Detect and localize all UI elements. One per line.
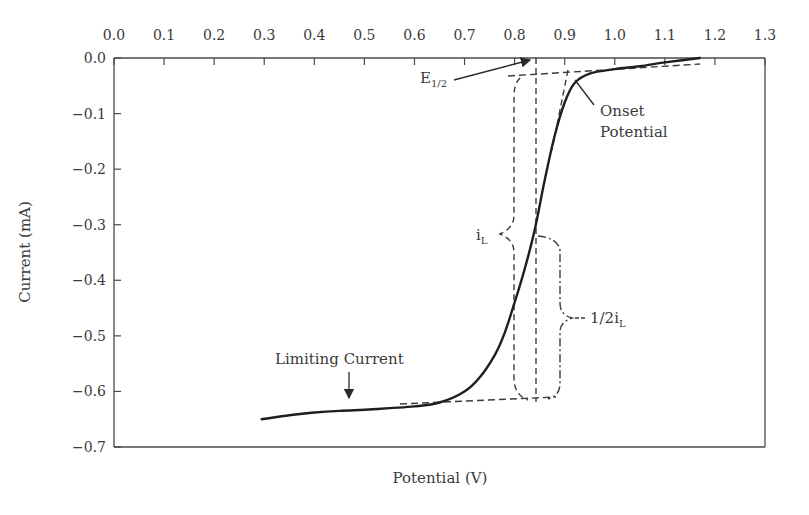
il-label: iL xyxy=(476,226,488,246)
plot-frame xyxy=(114,58,765,447)
x-tick-label: 0.0 xyxy=(103,27,125,43)
x-tick-label: 0.2 xyxy=(203,27,225,43)
limiting-current-label: Limiting Current xyxy=(275,350,404,368)
y-tick-label: −0.2 xyxy=(72,161,106,177)
limiting-baseline-dashed xyxy=(400,397,556,404)
e-half-arrow xyxy=(454,60,530,80)
lsv-chart: 0.00.10.20.30.40.50.60.70.80.91.01.11.21… xyxy=(0,0,809,515)
y-axis-title: Current (mA) xyxy=(16,201,34,303)
onset-label-line1: Onset xyxy=(600,102,645,120)
y-tick-label: −0.3 xyxy=(72,217,106,233)
x-axis-ticks: 0.00.10.20.30.40.50.60.70.80.91.01.11.21… xyxy=(103,27,776,65)
reference-lines xyxy=(400,58,700,404)
x-tick-label: 1.1 xyxy=(654,27,676,43)
x-tick-label: 0.1 xyxy=(153,27,175,43)
x-tick-label: 1.0 xyxy=(604,27,626,43)
x-tick-label: 0.8 xyxy=(503,27,525,43)
y-tick-label: −0.4 xyxy=(72,272,106,288)
x-tick-label: 0.4 xyxy=(303,27,325,43)
x-tick-label: 0.9 xyxy=(554,27,576,43)
x-tick-label: 1.2 xyxy=(704,27,726,43)
onset-arrow xyxy=(575,80,594,105)
y-tick-label: −0.5 xyxy=(72,328,106,344)
half-il-label: 1/2iL xyxy=(590,309,626,329)
il-bracket xyxy=(500,78,528,400)
x-tick-label: 0.3 xyxy=(253,27,275,43)
y-tick-label: 0.0 xyxy=(84,50,106,66)
x-tick-label: 0.6 xyxy=(403,27,425,43)
y-tick-label: −0.1 xyxy=(72,106,106,122)
x-tick-label: 0.7 xyxy=(453,27,475,43)
x-tick-label: 0.5 xyxy=(353,27,375,43)
y-tick-label: −0.6 xyxy=(72,383,106,399)
y-tick-label: −0.7 xyxy=(72,439,106,455)
half-il-bracket xyxy=(538,236,572,399)
x-axis-title: Potential (V) xyxy=(393,469,488,487)
onset-label-line2: Potential xyxy=(600,123,668,141)
e-half-label: E1/2 xyxy=(420,69,447,89)
x-tick-label: 1.3 xyxy=(754,27,776,43)
